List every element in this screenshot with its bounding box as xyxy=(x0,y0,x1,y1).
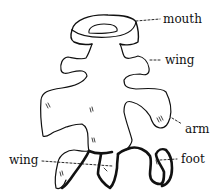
specimen-diagram: mouth wing arm wing foot xyxy=(0,0,222,196)
label-arm: arm xyxy=(185,123,209,135)
label-wing-upper: wing xyxy=(165,54,195,66)
label-foot: foot xyxy=(181,153,205,165)
label-mouth: mouth xyxy=(163,13,202,25)
label-wing-lower: wing xyxy=(9,154,39,166)
